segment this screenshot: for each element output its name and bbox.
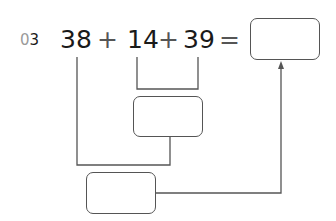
plus-sign-2: + [158, 25, 179, 55]
question-number-digit: 3 [30, 31, 40, 49]
plus-sign-1: + [97, 25, 118, 55]
arrow-up-icon [278, 61, 284, 69]
question-number: 03 [20, 31, 39, 49]
equals-sign: = [219, 25, 240, 55]
question-number-prefix: 0 [20, 31, 30, 49]
middle-sum-box[interactable] [133, 96, 203, 137]
term-1: 38 [60, 25, 92, 55]
term-2: 14 [127, 25, 159, 55]
bottom-sum-box[interactable] [86, 172, 156, 214]
answer-box[interactable] [250, 18, 320, 60]
bracket-14-39 [137, 57, 198, 89]
term-3: 39 [183, 25, 215, 55]
